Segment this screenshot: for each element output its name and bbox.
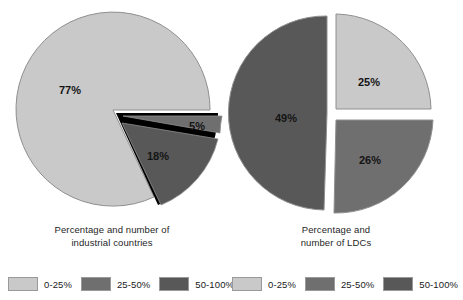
legend-swatch-0-25-icon <box>8 277 38 291</box>
legend-item-50-100[interactable]: 50-100% <box>159 277 234 291</box>
legend-swatch-50-100-icon <box>159 277 189 291</box>
legend-label-50-100: 50-100% <box>195 279 234 290</box>
caption-line-2: industrial countries <box>0 237 224 250</box>
caption-ldcs: Percentage and number of LDCs <box>224 224 448 249</box>
caption-line-1: Percentage and number of <box>0 224 224 237</box>
legend-item-0-25[interactable]: 0-25% <box>232 277 296 291</box>
pie-label-0-25: 77% <box>59 84 81 96</box>
pie-label-25-50: 18% <box>147 150 169 162</box>
legend-item-0-25[interactable]: 0-25% <box>8 277 72 291</box>
legend-item-25-50[interactable]: 25-50% <box>81 277 150 291</box>
legend-label-25-50: 25-50% <box>117 279 150 290</box>
pie-label-50-100: 5% <box>189 120 205 132</box>
legend-item-50-100[interactable]: 50-100% <box>383 277 458 291</box>
legend-swatch-25-50-icon <box>81 277 111 291</box>
panel-ldcs: 25% 26% 49% Percentage and number of LDC… <box>224 0 448 300</box>
legend-label-0-25: 0-25% <box>268 279 296 290</box>
caption-line-1: Percentage and <box>224 224 448 237</box>
legend-label-0-25: 0-25% <box>44 279 72 290</box>
pie-chart-ldcs: 25% 26% 49% <box>224 6 448 218</box>
legend-swatch-25-50-icon <box>305 277 335 291</box>
caption-industrial-countries: Percentage and number of industrial coun… <box>0 224 224 249</box>
legend-label-25-50: 25-50% <box>341 279 374 290</box>
pie-label-25-50: 26% <box>359 154 381 166</box>
legend-item-25-50[interactable]: 25-50% <box>305 277 374 291</box>
caption-line-2: number of LDCs <box>224 237 448 250</box>
legend-ldcs: 0-25% 25-50% 50-100% <box>232 275 463 293</box>
pie-label-50-100: 49% <box>275 112 297 124</box>
legend-swatch-0-25-icon <box>232 277 262 291</box>
legend-label-50-100: 50-100% <box>419 279 458 290</box>
panel-industrial-countries: 77% 18% 5% Percentage and number of indu… <box>0 0 224 300</box>
legend-swatch-50-100-icon <box>383 277 413 291</box>
pie-chart-industrial-countries: 77% 18% 5% <box>0 6 224 218</box>
legend-industrial-countries: 0-25% 25-50% 50-100% <box>8 275 243 293</box>
pie-slice-25-50[interactable] <box>334 120 433 213</box>
pie-label-0-25: 25% <box>358 76 380 88</box>
pie-slice-0-25[interactable] <box>336 14 431 109</box>
